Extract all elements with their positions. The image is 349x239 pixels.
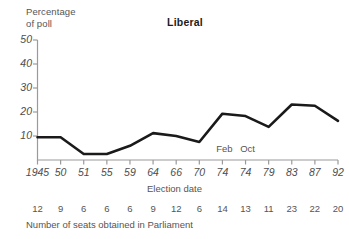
annotation-label: Feb (216, 143, 232, 154)
seat-value: 9 (150, 203, 155, 214)
y-tick-label: 50 (8, 33, 32, 45)
y-tick-label: 20 (8, 105, 32, 117)
x-tick-label: 66 (170, 166, 182, 178)
seat-value: 22 (310, 203, 321, 214)
x-tick-label: 83 (286, 166, 298, 178)
x-tick-label: 55 (101, 166, 113, 178)
y-tick-label: 30 (8, 81, 32, 93)
seat-value: 20 (333, 203, 344, 214)
seat-value: 14 (217, 203, 228, 214)
x-tick-label: 87 (309, 166, 321, 178)
x-tick-label: 50 (55, 166, 67, 178)
seat-value: 11 (264, 203, 274, 214)
seat-value: 6 (104, 203, 109, 214)
seat-value: 9 (58, 203, 63, 214)
x-tick-label: 74 (240, 166, 252, 178)
seat-value: 6 (81, 203, 86, 214)
seats-caption: Number of seats obtained in Parliament (26, 219, 193, 230)
x-tick-label: 70 (193, 166, 205, 178)
x-axis-caption: Election date (0, 183, 349, 194)
seat-value: 6 (127, 203, 132, 214)
x-tick-label: 92 (332, 166, 344, 178)
annotation-label: Oct (240, 143, 255, 154)
seat-value: 13 (240, 203, 251, 214)
x-tick-marks (38, 160, 339, 165)
y-tick-marks (33, 40, 38, 136)
axis-group (38, 40, 339, 161)
y-tick-label: 40 (8, 57, 32, 69)
x-tick-label: 64 (147, 166, 159, 178)
x-tick-label: 74 (217, 166, 229, 178)
x-tick-label: 51 (78, 166, 90, 178)
liberal-series-line (38, 105, 339, 154)
seat-value: 12 (171, 203, 182, 214)
x-tick-label: 1945 (26, 166, 49, 178)
seat-value: 6 (197, 203, 202, 214)
liberal-vote-share-chart: Percentage of poll Liberal 5040302010 19… (0, 0, 349, 239)
seat-value: 23 (286, 203, 297, 214)
x-tick-label: 79 (263, 166, 275, 178)
y-axis-title: Percentage of poll (26, 6, 76, 29)
x-tick-label: 59 (124, 166, 136, 178)
y-tick-label: 10 (8, 129, 32, 141)
seat-value: 12 (32, 203, 43, 214)
chart-title: Liberal (120, 16, 250, 28)
